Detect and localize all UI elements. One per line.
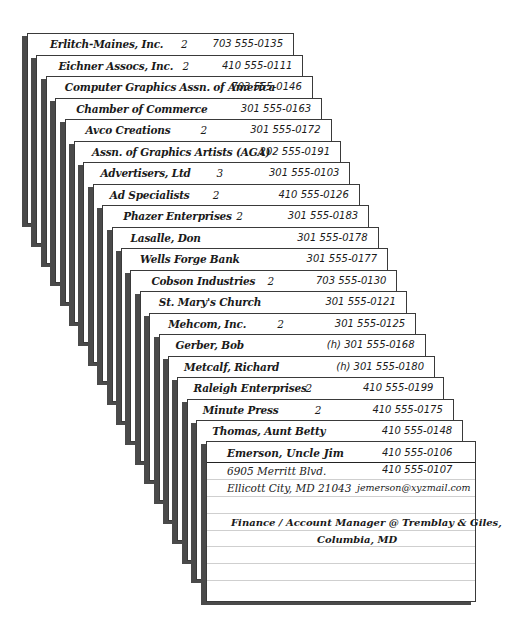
card-name: Chamber of Commerce <box>76 103 207 115</box>
card-phone: 703 555-0130 <box>316 275 386 286</box>
rule-line <box>207 513 475 514</box>
card-phone: 410 555-0126 <box>278 189 348 200</box>
card-name: Raleigh Enterprises <box>193 382 306 394</box>
header-rule <box>207 462 475 463</box>
front-card-emerson[interactable]: Emerson, Uncle Jim 410 555-0106 6905 Mer… <box>206 441 476 602</box>
card-phone: 301 555-0103 <box>269 167 339 178</box>
card-phone: 301 555-0177 <box>307 253 377 264</box>
card-name: Thomas, Aunt Betty <box>212 425 325 437</box>
front-card-phone-1: 410 555-0106 <box>382 447 452 458</box>
front-card-note-line-2: Columbia, MD <box>317 534 397 545</box>
card-phone: 301 555-0183 <box>288 210 358 221</box>
front-card-email: jemerson@xyzmail.com <box>357 482 471 493</box>
card-header-row: Eichner Assocs, Inc.2410 555-0111 <box>37 56 302 77</box>
card-header-row: Wells Forge Bank301 555-0177 <box>122 249 387 270</box>
card-phone: 202 555-0191 <box>260 146 330 157</box>
card-name: Wells Forge Bank <box>140 253 240 265</box>
card-phone: 301 555-0172 <box>250 124 320 135</box>
card-header-row: Mehcom, Inc.2301 555-0125 <box>150 314 415 335</box>
card-phone: (h) 301 555-0168 <box>327 339 415 350</box>
card-name: Erlitch-Maines, Inc. <box>50 38 163 50</box>
rule-line <box>207 546 475 547</box>
card-header-row: Phazer Enterprises2301 555-0183 <box>103 206 368 227</box>
card-header-row: Chamber of Commerce301 555-0163 <box>56 99 321 120</box>
card-phone: 410 555-0111 <box>222 60 292 71</box>
card-name: St. Mary's Church <box>159 296 261 308</box>
card-header-row: Cobson Industries2703 555-0130 <box>131 271 396 292</box>
card-name: Phazer Enterprises <box>123 210 232 222</box>
card-header-row: Assn. of Graphics Artists (AGA)202 555-0… <box>75 142 340 163</box>
card-header-row: Avco Creations2301 555-0172 <box>66 120 331 141</box>
card-name: Ad Specialists <box>110 189 190 201</box>
card-header-row: Computer Graphics Assn. of America703 55… <box>47 77 312 98</box>
card-count: 2 <box>182 60 189 72</box>
card-count: 3 <box>216 167 223 179</box>
card-phone: 301 555-0163 <box>241 103 311 114</box>
card-phone: 703 555-0135 <box>213 38 283 49</box>
card-header-row: Thomas, Aunt Betty410 555-0148 <box>197 421 462 442</box>
card-phone: 703 555-0146 <box>231 81 301 92</box>
card-count: 2 <box>236 210 243 222</box>
card-name: Eichner Assocs, Inc. <box>58 60 173 72</box>
card-phone: 410 555-0175 <box>372 404 442 415</box>
card-header-row: Lasalle, Don301 555-0178 <box>113 228 378 249</box>
card-name: Metcalf, Richard <box>184 361 279 373</box>
rule-line <box>207 479 475 480</box>
card-header-row: Ad Specialists2410 555-0126 <box>94 185 359 206</box>
front-card-note-line-1: Finance / Account Manager @ Tremblay & G… <box>231 517 502 528</box>
card-header-row: Minute Press2410 555-0175 <box>188 400 453 421</box>
card-header-row: Advertisers, Ltd3301 555-0103 <box>84 163 349 184</box>
card-name: Minute Press <box>203 404 279 416</box>
card-phone: 301 555-0178 <box>297 232 367 243</box>
rule-line <box>207 496 475 497</box>
card-count: 2 <box>315 404 322 416</box>
card-name: Cobson Industries <box>151 275 255 287</box>
front-card-address-line-2: Ellicott City, MD 21043 <box>227 482 351 494</box>
rule-line <box>207 530 475 531</box>
front-card-phone-2: 410 555-0107 <box>382 464 452 475</box>
card-name: Lasalle, Don <box>131 232 201 244</box>
card-count: 2 <box>277 318 284 330</box>
card-header-row: Metcalf, Richard(h) 301 555-0180 <box>169 357 434 378</box>
card-header-row: Gerber, Bob(h) 301 555-0168 <box>160 335 425 356</box>
card-name: Advertisers, Ltd <box>100 167 190 179</box>
card-count: 2 <box>181 38 188 50</box>
card-header-row: St. Mary's Church301 555-0121 <box>141 292 406 313</box>
card-count: 2 <box>201 124 208 136</box>
card-count: 2 <box>305 382 312 394</box>
card-header-row: Raleigh Enterprises2410 555-0199 <box>178 378 443 399</box>
card-count: 2 <box>213 189 220 201</box>
card-phone: (h) 301 555-0180 <box>336 361 424 372</box>
card-phone: 410 555-0148 <box>382 425 452 436</box>
card-name: Gerber, Bob <box>176 339 244 351</box>
front-card-address-line-1: 6905 Merritt Blvd. <box>227 465 326 477</box>
rule-line <box>207 580 475 581</box>
rule-line <box>207 563 475 564</box>
card-phone: 301 555-0125 <box>335 318 405 329</box>
card-count: 2 <box>267 275 274 287</box>
front-card-name: Emerson, Uncle Jim <box>227 447 344 459</box>
card-name: Mehcom, Inc. <box>168 318 246 330</box>
card-phone: 410 555-0199 <box>363 382 433 393</box>
card-header-row: Erlitch-Maines, Inc.2703 555-0135 <box>28 34 293 55</box>
card-name: Avco Creations <box>86 124 171 136</box>
card-phone: 301 555-0121 <box>325 296 395 307</box>
card-name: Assn. of Graphics Artists (AGA) <box>92 146 270 158</box>
